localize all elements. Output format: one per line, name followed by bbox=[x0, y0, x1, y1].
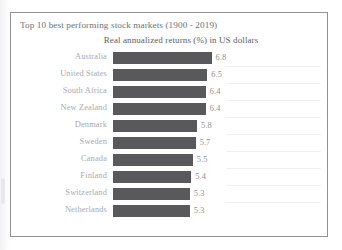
bar-track: 6.4 bbox=[113, 101, 321, 118]
bar bbox=[113, 86, 206, 98]
bar-value-label: 5.7 bbox=[200, 138, 211, 147]
bar-category-label: United States bbox=[11, 69, 107, 78]
bar-category-label: South Africa bbox=[11, 86, 107, 95]
bar-category-label: Denmark bbox=[11, 120, 107, 129]
bar-track: 6.8 bbox=[113, 50, 321, 67]
bar bbox=[113, 103, 206, 115]
bar bbox=[113, 188, 190, 200]
bar-category-label: Netherlands bbox=[11, 205, 107, 214]
scan-margin bbox=[0, 0, 10, 250]
gridline bbox=[226, 117, 321, 118]
bar-track: 6.5 bbox=[113, 67, 321, 84]
bar-value-label: 6.4 bbox=[210, 87, 221, 96]
bar-row: Australia6.8 bbox=[11, 50, 329, 67]
bar-value-label: 5.8 bbox=[201, 121, 212, 130]
bar-value-label: 6.8 bbox=[216, 53, 227, 62]
bar-track: 5.5 bbox=[113, 152, 321, 169]
gridline bbox=[226, 100, 321, 101]
bar-row: Denmark5.8 bbox=[11, 118, 329, 135]
bar-category-label: Sweden bbox=[11, 137, 107, 146]
gridline bbox=[226, 202, 321, 203]
bar-category-label: Canada bbox=[11, 154, 107, 163]
bar bbox=[113, 137, 196, 149]
bar-value-label: 5.3 bbox=[194, 206, 205, 215]
bar-row: South Africa6.4 bbox=[11, 84, 329, 101]
bar-category-label: Finland bbox=[11, 171, 107, 180]
bar-row: Sweden5.7 bbox=[11, 135, 329, 152]
bar bbox=[113, 69, 207, 81]
bar bbox=[113, 205, 190, 217]
chart-frame: Top 10 best performing stock markets (19… bbox=[10, 12, 328, 237]
bar-track: 5.4 bbox=[113, 169, 321, 186]
bar-row: United States6.5 bbox=[11, 67, 329, 84]
bar-track: 5.3 bbox=[113, 186, 321, 203]
bar-value-label: 5.4 bbox=[195, 172, 206, 181]
bar-category-label: New Zealand bbox=[11, 103, 107, 112]
bar bbox=[113, 171, 191, 183]
bar bbox=[113, 52, 212, 64]
gridline bbox=[226, 66, 321, 67]
bar-value-label: 6.4 bbox=[210, 104, 221, 113]
bar-row: Canada5.5 bbox=[11, 152, 329, 169]
bar-track: 5.3 bbox=[113, 203, 321, 220]
bar-track: 5.8 bbox=[113, 118, 321, 135]
bar-track: 6.4 bbox=[113, 84, 321, 101]
bar-row: New Zealand6.4 bbox=[11, 101, 329, 118]
bar-row: Switzerland5.3 bbox=[11, 186, 329, 203]
bar-row: Netherlands5.3 bbox=[11, 203, 329, 220]
bar-row: Finland5.4 bbox=[11, 169, 329, 186]
bar-value-label: 5.5 bbox=[197, 155, 208, 164]
bar-value-label: 5.3 bbox=[194, 189, 205, 198]
gridline bbox=[226, 134, 321, 135]
bar-track: 5.7 bbox=[113, 135, 321, 152]
chart-subtitle: Real annualized returns (%) in US dollar… bbox=[11, 35, 327, 45]
gridline bbox=[226, 168, 321, 169]
chart-title: Top 10 best performing stock markets (19… bbox=[20, 20, 217, 30]
gridline bbox=[226, 185, 321, 186]
gridline bbox=[226, 151, 321, 152]
bar-category-label: Switzerland bbox=[11, 188, 107, 197]
bar bbox=[113, 154, 193, 166]
bar bbox=[113, 120, 197, 132]
plot-area: Australia6.8United States6.5South Africa… bbox=[11, 50, 329, 237]
gridline bbox=[226, 83, 321, 84]
bar-category-label: Australia bbox=[11, 52, 107, 61]
bar-value-label: 6.5 bbox=[211, 70, 222, 79]
